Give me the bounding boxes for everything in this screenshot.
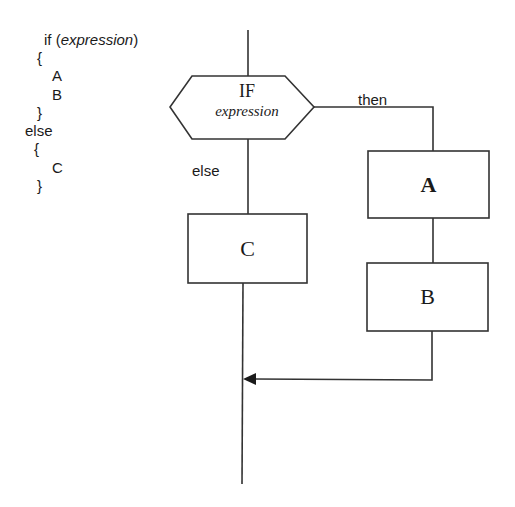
then-connector bbox=[314, 107, 433, 151]
else-label: else bbox=[192, 162, 220, 179]
flowchart-diagram: if (expression) { A B } else { C } bbox=[0, 0, 515, 507]
then-return-connector bbox=[250, 331, 432, 380]
box-b-label: B bbox=[367, 284, 488, 310]
box-c-label: C bbox=[188, 236, 307, 262]
merge-arrowhead-icon bbox=[243, 373, 256, 385]
exit-line bbox=[242, 283, 243, 484]
box-a-label: A bbox=[368, 172, 489, 198]
then-label: then bbox=[358, 91, 387, 108]
decision-title: IF bbox=[200, 81, 294, 102]
decision-subtitle: expression bbox=[190, 103, 304, 120]
